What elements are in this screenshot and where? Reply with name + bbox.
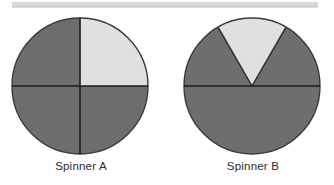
top-divider-rule (12, 2, 318, 8)
spinner-b-diagram (183, 17, 323, 157)
spinner-b-figure: Spinner B (183, 17, 323, 177)
spinner-b-sector-bottom-half (184, 86, 320, 154)
spinner-a-figure: Spinner A (11, 17, 151, 177)
spinner-a-diagram (11, 17, 151, 157)
spinner-a-label: Spinner A (11, 159, 151, 173)
spinner-b-label: Spinner B (183, 159, 323, 173)
spinner-a-sector-top-left (12, 18, 80, 86)
spinner-figure-page: Spinner A Spinner B (0, 0, 334, 185)
spinner-a-sector-top-right (80, 18, 148, 86)
spinner-a-sector-bottom-left (12, 86, 80, 154)
spinner-a-sector-bottom-right (80, 86, 148, 154)
